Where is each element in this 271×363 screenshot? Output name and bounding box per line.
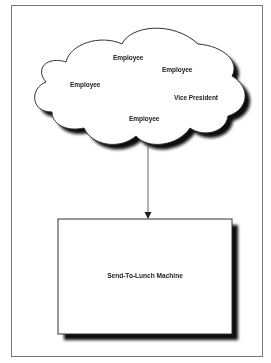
node-employee-right: Employee bbox=[162, 65, 192, 74]
node-vice-president: Vice President bbox=[174, 93, 218, 102]
node-employee-left: Employee bbox=[70, 80, 100, 89]
arrow-connector bbox=[145, 146, 152, 219]
node-employee-bottom: Employee bbox=[129, 114, 159, 123]
cloud-shape bbox=[35, 28, 245, 144]
node-employee-top: Employee bbox=[113, 53, 143, 62]
machine-label: Send-To-Lunch Machine bbox=[74, 271, 217, 280]
